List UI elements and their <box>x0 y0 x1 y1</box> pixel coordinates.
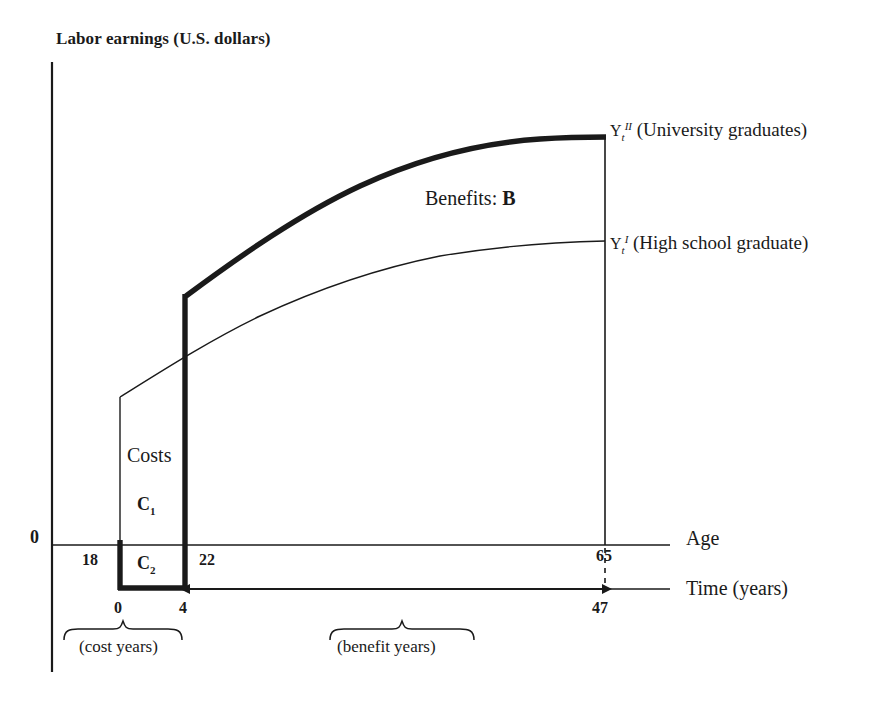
costs-label: Costs <box>127 445 171 465</box>
cost-c1-label: C1 <box>137 495 156 517</box>
highschool-symbol: YtI <box>610 234 628 256</box>
cost-c2-label: C2 <box>137 554 156 576</box>
cost-c1-letter: C <box>137 494 150 514</box>
university-curve-label: YtII (University graduates) <box>610 120 807 142</box>
highschool-symbol-letter: Y <box>610 235 622 252</box>
benefit-years-caption: (benefit years) <box>337 638 436 655</box>
cost-c2-subscript: 2 <box>150 564 156 576</box>
highschool-earnings-curve <box>120 241 605 397</box>
time-tick-47: 47 <box>592 600 608 616</box>
diagram-svg <box>0 0 872 711</box>
y-origin-label: 0 <box>30 528 39 546</box>
age-tick-65: 65 <box>596 548 612 564</box>
benefits-prefix: Benefits: <box>425 187 502 209</box>
cost-years-caption: (cost years) <box>79 638 158 655</box>
cost-c2-letter: C <box>137 553 150 573</box>
time-axis-label: Time (years) <box>686 578 788 598</box>
highschool-curve-name: (High school graduate) <box>633 232 808 253</box>
page-title: Labor earnings (U.S. dollars) <box>56 30 271 47</box>
age-tick-22: 22 <box>199 552 215 568</box>
highschool-symbol-sup: I <box>625 233 629 245</box>
benefits-symbol: B <box>502 187 515 209</box>
university-curve-name: (University graduates) <box>637 119 807 140</box>
figure-canvas: Labor earnings (U.S. dollars) 0 Age Time… <box>0 0 872 711</box>
university-earnings-curve <box>186 137 606 296</box>
time-tick-4: 4 <box>179 600 187 616</box>
age-tick-18: 18 <box>82 552 98 568</box>
university-symbol: YtII <box>610 121 632 143</box>
age-axis-label: Age <box>686 528 719 548</box>
highschool-curve-label: YtI (High school graduate) <box>610 233 808 255</box>
time-tick-0: 0 <box>114 600 122 616</box>
cost-c1-subscript: 1 <box>150 505 156 517</box>
university-symbol-letter: Y <box>610 122 622 139</box>
benefits-label: Benefits: B <box>425 188 516 208</box>
university-symbol-sup: II <box>625 120 632 132</box>
